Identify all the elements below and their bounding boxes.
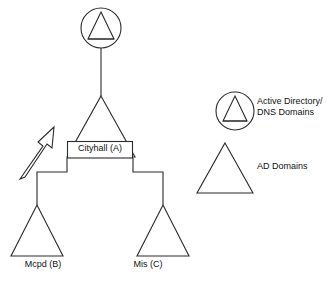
triangle-icon-mcpd xyxy=(11,205,63,256)
mis-label: Mis (C) xyxy=(113,259,183,270)
diagram-canvas: Cityhall (A) Mcpd (B) Mis (C) Active Dir… xyxy=(0,0,332,285)
mcpd-domain-node[interactable] xyxy=(11,205,63,256)
legend-label-ad-domains: AD Domains xyxy=(257,161,331,172)
connector-cityhall-to-mis xyxy=(133,158,163,205)
triangle-icon-mis xyxy=(137,205,189,256)
legend-label-active-directory-dns-domains: Active Directory/ DNS Domains xyxy=(257,96,331,118)
outline-arrow-up-right-icon xyxy=(20,127,54,179)
mis-domain-node[interactable] xyxy=(137,205,189,256)
connector-cityhall-to-mcpd xyxy=(37,158,67,205)
diagram-vector-layer xyxy=(0,0,332,285)
legend-circled-triangle-icon xyxy=(216,92,254,130)
legend-triangle xyxy=(197,143,253,193)
root-domain-node[interactable] xyxy=(81,8,121,48)
legend-label-line-1: Active Directory/ xyxy=(257,96,323,106)
legend-circle xyxy=(216,92,254,130)
legend-triangle-icon xyxy=(197,143,253,193)
legend-circle-triangle xyxy=(223,96,247,121)
circled-triangle-icon-triangle xyxy=(88,12,114,39)
mcpd-label: Mcpd (B) xyxy=(8,259,78,270)
legend-label-line-2: DNS Domains xyxy=(257,107,314,117)
circled-triangle-icon-circle xyxy=(81,8,121,48)
cityhall-label: Cityhall (A) xyxy=(68,143,132,154)
